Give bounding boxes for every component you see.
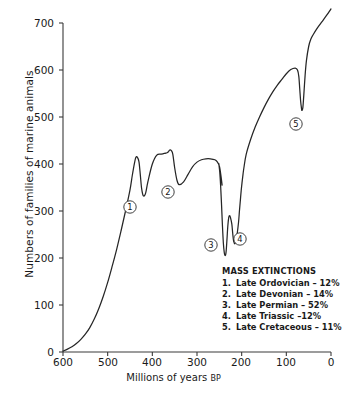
legend-table: 1. Late Ordovician – 12% 2. Late Devonia… [222,278,342,334]
extinction-markers: 12345 [124,118,302,251]
legend-item-number: 1. [222,278,234,289]
extinction-marker-label-2: 2 [165,187,170,197]
x-axis-ticks [63,352,331,356]
legend-row: 2. Late Devonian – 14% [222,289,342,300]
legend-item-text: Late Devonian – 14% [234,289,342,300]
legend-item-number: 2. [222,289,234,300]
legend-item-text: Late Permian – 52% [234,300,342,311]
legend-item-number: 5. [222,322,234,333]
extinction-marker-label-1: 1 [127,202,132,212]
extinction-marker-label-3: 3 [208,240,213,250]
legend-item-number: 4. [222,311,234,322]
legend-row: 3. Late Permian – 52% [222,300,342,311]
legend-title: MASS EXTINCTIONS [222,266,342,277]
legend-mass-extinctions: MASS EXTINCTIONS 1. Late Ordovician – 12… [222,266,342,334]
plot-area: 12345 [0,0,347,394]
extinction-marker-label-5: 5 [293,119,298,129]
legend-row: 4. Late Triassic –12% [222,311,342,322]
legend-item-text: Late Cretaceous – 11% [234,322,342,333]
legend-item-text: Late Triassic –12% [234,311,342,322]
legend-item-text: Late Ordovician – 12% [234,278,342,289]
legend-row: 1. Late Ordovician – 12% [222,278,342,289]
y-axis-ticks [59,23,63,352]
figure-container: Numbers of families of marine animals Mi… [0,0,347,394]
legend-item-number: 3. [222,300,234,311]
legend-row: 5. Late Cretaceous – 11% [222,322,342,333]
extinction-marker-label-4: 4 [237,234,242,244]
